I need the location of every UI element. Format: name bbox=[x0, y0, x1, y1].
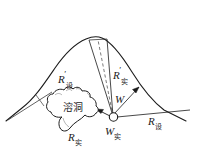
label-symbol: R bbox=[68, 131, 75, 143]
label-cave: 溶洞 bbox=[63, 99, 83, 114]
label-subscript: 实 bbox=[114, 133, 121, 141]
label-prime: ′ bbox=[64, 69, 66, 79]
label-symbol: W bbox=[105, 125, 114, 137]
dashed-summit-line bbox=[98, 40, 113, 116]
survey-point-circle bbox=[109, 113, 117, 121]
label-w: W bbox=[115, 90, 124, 106]
label-subscript: 设 bbox=[66, 82, 73, 90]
label-r-design-prime: R′设 bbox=[58, 70, 73, 90]
label-prime: ′ bbox=[119, 65, 121, 75]
summit-chord bbox=[89, 39, 107, 40]
label-subscript: 实 bbox=[121, 78, 128, 86]
label-symbol: R bbox=[148, 115, 155, 127]
label-symbol: W bbox=[115, 93, 124, 105]
left-tangent-line bbox=[8, 92, 52, 120]
label-r-actual-prime: R′实 bbox=[113, 66, 128, 86]
label-subscript: 设 bbox=[155, 123, 162, 131]
cross-section-drawing bbox=[0, 0, 208, 151]
figure-container: R′设 R′实 W W实 R实 R设 溶洞 bbox=[0, 0, 208, 151]
label-r-actual: R实 bbox=[68, 128, 82, 147]
label-w-actual: W实 bbox=[105, 122, 121, 141]
label-subscript: 实 bbox=[75, 139, 82, 147]
label-r-design: R设 bbox=[148, 112, 162, 131]
